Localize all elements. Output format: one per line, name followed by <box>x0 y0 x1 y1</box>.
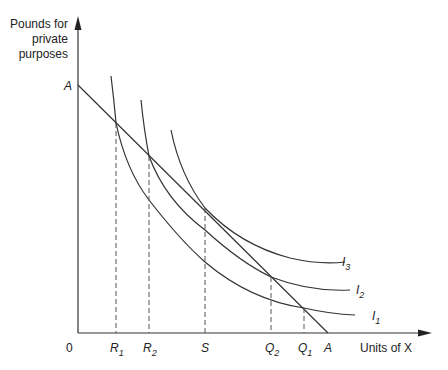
budget-intercept-x-label: A <box>323 341 332 355</box>
y-axis-label-line-1: Pounds for <box>10 17 68 31</box>
curve-label-i3: I3 <box>342 255 350 272</box>
curve-label-i1: I1 <box>372 309 380 326</box>
svg-text:I3: I3 <box>342 255 350 272</box>
indifference-curve-i2 <box>141 100 350 290</box>
indifference-curve-i1 <box>111 76 355 315</box>
x-axis-arrow-icon <box>418 330 432 337</box>
tick-label-r2: R2 <box>143 341 157 358</box>
tick-label-s: S <box>201 341 209 355</box>
indifference-curve-diagram: Pounds for private purposes Units of X 0… <box>0 0 448 370</box>
curve-label-i2: I2 <box>356 283 364 300</box>
budget-intercept-y-label: A <box>63 79 72 93</box>
tick-label-q1: Q1 <box>298 341 312 358</box>
tick-label-r1: R1 <box>110 341 124 358</box>
x-axis-label: Units of X <box>360 341 412 355</box>
svg-text:I1: I1 <box>372 309 380 326</box>
svg-text:I2: I2 <box>356 283 364 300</box>
y-axis-arrow-icon <box>75 16 82 30</box>
origin-label: 0 <box>66 341 73 355</box>
y-axis-label-line-2: private <box>32 32 68 46</box>
indifference-curve-i3 <box>171 130 345 263</box>
axes <box>78 26 420 333</box>
y-axis-label-line-3: purposes <box>19 47 68 61</box>
tick-label-q2: Q2 <box>265 341 279 358</box>
